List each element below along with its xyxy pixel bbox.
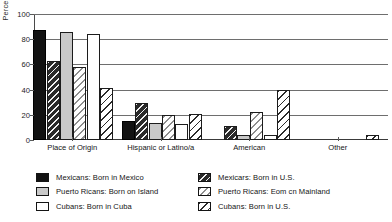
plot-area: Percentage 020406080100 Place of OriginH… (0, 0, 392, 160)
legend-item: Puerto Ricans: Eom cn Mainland (198, 185, 330, 200)
legend-swatch-icon (198, 173, 211, 182)
chart-legend: Mexicans: Born in MexicoPuerto Ricans: B… (0, 170, 392, 220)
bar (277, 90, 290, 140)
bar (162, 115, 175, 140)
bar (149, 123, 162, 140)
bar-groups (34, 14, 388, 140)
chart-axes (34, 14, 388, 140)
legend-column-left: Mexicans: Born in MexicoPuerto Ricans: B… (36, 170, 158, 214)
y-axis-tick-mark (30, 64, 34, 65)
legend-item-label: Puerto Ricans: Born on Island (56, 187, 158, 196)
x-axis-category-label: Hispanic or Latino/a (127, 143, 194, 152)
x-axis-category-label: American (233, 143, 265, 152)
legend-item: Cubans: Born in Cuba (36, 199, 158, 214)
bar-chart-figure: Percentage 020406080100 Place of OriginH… (0, 0, 392, 222)
bar (135, 103, 148, 140)
bar (250, 112, 263, 140)
legend-swatch-icon (36, 202, 49, 211)
legend-item: Puerto Ricans: Born on Island (36, 185, 158, 200)
y-axis-tick-mark (30, 115, 34, 116)
bar (366, 135, 379, 140)
bar (33, 30, 46, 140)
bar-group (299, 14, 377, 140)
bar-group (210, 14, 288, 140)
bar (100, 88, 113, 140)
x-axis-tick-mark (72, 137, 73, 141)
y-axis-tick-label: 80 (8, 35, 30, 44)
bar (87, 34, 100, 140)
x-axis-category-label: Place of Origin (47, 143, 97, 152)
legend-swatch-icon (198, 202, 211, 211)
y-axis-tick-mark (30, 14, 34, 15)
bar (175, 124, 188, 140)
bar (60, 32, 73, 140)
x-axis-tick-mark (338, 137, 339, 141)
legend-item-label: Mexicans: Born in Mexico (56, 173, 144, 182)
legend-item: Mexicars: Born in U.S. (198, 170, 330, 185)
bar (73, 67, 86, 140)
y-axis-tick-mark (30, 140, 34, 141)
legend-swatch-icon (36, 173, 49, 182)
legend-item: Mexicans: Born in Mexico (36, 170, 158, 185)
legend-column-right: Mexicars: Born in U.S.Puerto Ricans: Eom… (198, 170, 330, 214)
legend-item-label: Puerto Ricans: Eom cn Mainland (218, 187, 330, 196)
y-axis-tick-mark (30, 39, 34, 40)
x-axis-category-label: Other (328, 143, 347, 152)
bar (224, 126, 237, 140)
bar (47, 61, 60, 140)
legend-swatch-icon (198, 187, 211, 196)
legend-item-label: Cubans: Born in Cuba (56, 202, 132, 211)
legend-swatch-icon (36, 187, 49, 196)
x-axis-tick-mark (161, 137, 162, 141)
y-axis-tick-labels: 020406080100 (6, 0, 30, 160)
x-axis-tick-mark (249, 137, 250, 141)
bar-group (122, 14, 200, 140)
bar (237, 135, 250, 140)
bar (122, 121, 135, 140)
y-axis-tick-label: 0 (8, 136, 30, 145)
bar (264, 135, 277, 140)
legend-item-label: Cubans: Born in U.S. (218, 202, 290, 211)
y-axis-tick-label: 60 (8, 60, 30, 69)
y-axis-tick-label: 100 (8, 10, 30, 19)
y-axis-tick-label: 20 (8, 110, 30, 119)
bar (189, 114, 202, 140)
y-axis-tick-mark (30, 90, 34, 91)
legend-item-label: Mexicars: Born in U.S. (218, 173, 295, 182)
legend-item: Cubans: Born in U.S. (198, 199, 330, 214)
bar-group (33, 14, 111, 140)
y-axis-tick-label: 40 (8, 85, 30, 94)
